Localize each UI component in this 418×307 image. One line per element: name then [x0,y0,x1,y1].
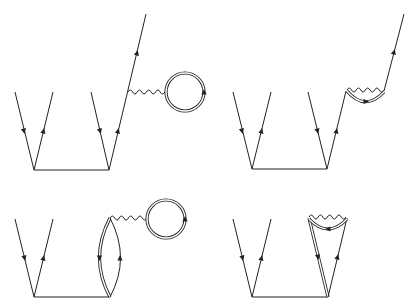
fermion-pair-left [233,92,271,169]
photon-propagator [110,216,147,220]
feynman-diagrams-figure [0,0,418,307]
photon-propagator [128,90,165,94]
diagram-bottom-right [233,215,347,297]
vertex-photon [309,215,346,219]
double-line-loop [147,200,188,238]
fermion-pair-left [15,219,53,297]
double-line-arc [347,91,384,104]
diagram-top-right [233,14,404,169]
double-line-loop [166,73,207,111]
self-energy-photon [347,88,384,92]
fermion-pair-right [308,91,346,169]
fermion-pair-left [233,219,271,297]
double-line-arc [309,219,347,232]
fermion-pair-left [15,92,53,170]
lens-double-single-lines [97,218,123,297]
diagram-bottom-left [15,200,188,297]
diagram-top-left [15,14,207,170]
